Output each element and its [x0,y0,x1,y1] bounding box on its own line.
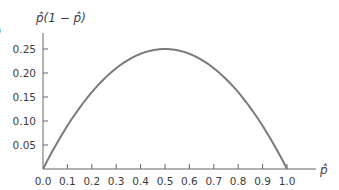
cropped-paren: ) [0,24,1,37]
y-tick-label: 0.20 [13,67,36,79]
y-axis-title: p̂(1 − p̂) [35,11,86,25]
x-tick-label: 0.5 [157,175,174,187]
x-tick-label: 1.0 [279,175,296,187]
y-tick-label: 0.25 [13,43,36,55]
parabola-curve [43,49,287,169]
x-tick-label: 0.1 [59,175,76,187]
x-axis-title: p̂ [319,163,328,177]
x-tick-label: 0.0 [35,175,52,187]
x-tick-label: 0.8 [230,175,247,187]
y-tick-label: 0.10 [13,115,36,127]
x-tick-label: 0.6 [181,175,198,187]
x-ticks: 0.00.10.20.30.40.50.60.70.80.91.0 [35,164,296,187]
x-tick-label: 0.3 [108,175,125,187]
chart: ) p̂(1 − p̂) p̂ 0.050.100.150.200.25 0.0… [0,0,339,190]
x-tick-label: 0.2 [83,175,100,187]
x-tick-label: 0.4 [132,175,149,187]
y-tick-label: 0.05 [13,139,36,151]
x-tick-label: 0.9 [254,175,271,187]
y-tick-label: 0.15 [13,91,36,103]
x-tick-label: 0.7 [205,175,222,187]
